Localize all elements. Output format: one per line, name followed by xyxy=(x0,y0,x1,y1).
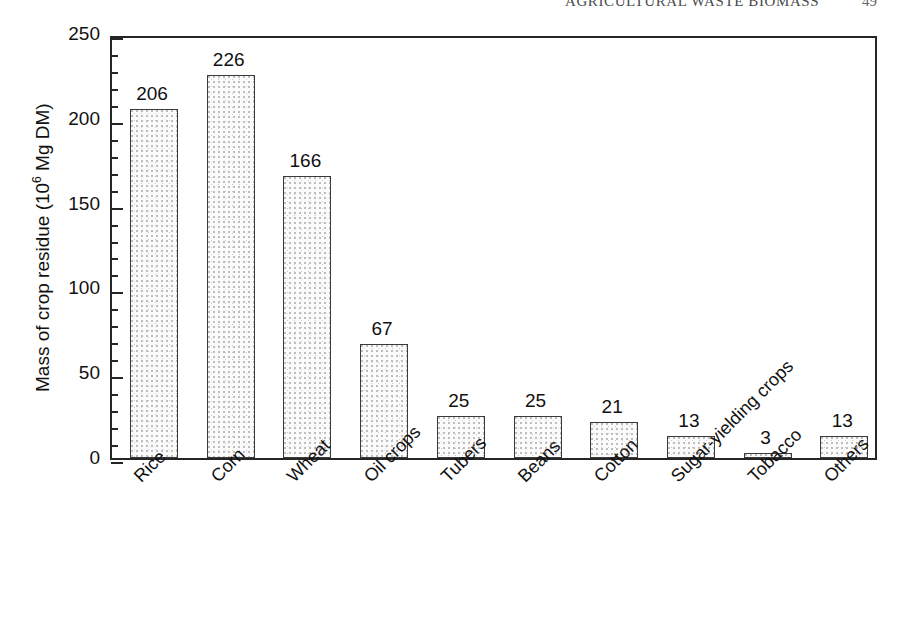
y-axis-tick-label: 0 xyxy=(48,447,100,469)
y-axis-minor-tick xyxy=(111,191,118,193)
bar-chart-figure: Mass of crop residue (106 Mg DM) 0501001… xyxy=(0,0,909,637)
bar-value-label: 226 xyxy=(213,49,245,71)
y-axis-minor-tick xyxy=(111,428,118,430)
bar-value-label: 13 xyxy=(832,410,853,432)
y-axis-tick-label: 150 xyxy=(48,193,100,215)
bar-value-label: 166 xyxy=(290,150,322,172)
y-axis-minor-tick xyxy=(111,55,118,57)
y-axis-minor-tick xyxy=(111,89,118,91)
y-axis-minor-tick xyxy=(111,326,118,328)
bar-value-label: 206 xyxy=(136,83,168,105)
y-axis-tick-label: 200 xyxy=(48,108,100,130)
y-axis-major-tick xyxy=(111,38,123,40)
y-axis-minor-tick xyxy=(111,275,118,277)
y-axis-minor-tick xyxy=(111,258,118,260)
bar-wheat xyxy=(283,176,331,458)
y-axis-tick-label: 250 xyxy=(48,23,100,45)
y-axis-minor-tick xyxy=(111,242,118,244)
y-axis-minor-tick xyxy=(111,360,118,362)
y-axis-tick-label: 50 xyxy=(48,362,100,384)
y-axis-minor-tick xyxy=(111,174,118,176)
y-axis-title: Mass of crop residue (106 Mg DM) xyxy=(30,28,53,468)
bar-corn xyxy=(207,75,255,458)
bar-value-label: 25 xyxy=(525,390,546,412)
bar-value-label: 21 xyxy=(602,396,623,418)
y-axis-title-exponent: 6 xyxy=(30,176,44,183)
y-axis-minor-tick xyxy=(111,343,118,345)
y-axis-minor-tick xyxy=(111,394,118,396)
y-axis-major-tick xyxy=(111,208,123,210)
y-axis-minor-tick xyxy=(111,411,118,413)
y-axis-minor-tick xyxy=(111,225,118,227)
bar-value-label: 13 xyxy=(678,410,699,432)
bar-value-label: 67 xyxy=(372,318,393,340)
y-axis-major-tick xyxy=(111,462,123,464)
y-axis-minor-tick xyxy=(111,72,118,74)
y-axis-minor-tick xyxy=(111,309,118,311)
bar-value-label: 25 xyxy=(448,390,469,412)
y-axis-major-tick xyxy=(111,292,123,294)
y-axis-minor-tick xyxy=(111,157,118,159)
y-axis-major-tick xyxy=(111,377,123,379)
y-axis-tick-label: 100 xyxy=(48,277,100,299)
y-axis-major-tick xyxy=(111,123,123,125)
y-axis-minor-tick xyxy=(111,106,118,108)
y-axis-minor-tick xyxy=(111,140,118,142)
y-axis-minor-tick xyxy=(111,445,118,447)
bar-rice xyxy=(130,109,178,458)
